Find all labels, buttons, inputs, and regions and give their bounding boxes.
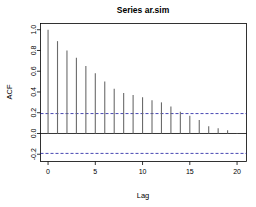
x-tick-label: 10: [139, 168, 147, 175]
x-tick-label: 15: [186, 168, 194, 175]
x-tick-label: 20: [233, 168, 241, 175]
y-tick-label: 0.8: [30, 46, 37, 56]
y-tick-label: 0.4: [30, 87, 37, 97]
y-tick-label: -0.2: [30, 148, 37, 160]
y-tick-label: 0.6: [30, 66, 37, 76]
y-tick-label: 0.2: [30, 108, 37, 118]
x-tick-label: 5: [93, 168, 97, 175]
acf-plot-canvas: Series ar.sim -0.20.00.20.40.60.81.0 051…: [0, 0, 256, 207]
y-tick-label: 0.0: [30, 129, 37, 139]
y-tick-label: 1.0: [30, 25, 37, 35]
x-tick-label: 0: [46, 168, 50, 175]
x-axis-title: Lag: [137, 191, 150, 200]
acf-plot-figure: Series ar.sim -0.20.00.20.40.60.81.0 051…: [0, 0, 256, 207]
plot-background: [0, 0, 256, 207]
page-title: Series ar.sim: [117, 5, 170, 15]
y-axis-title: ACF: [5, 84, 14, 99]
